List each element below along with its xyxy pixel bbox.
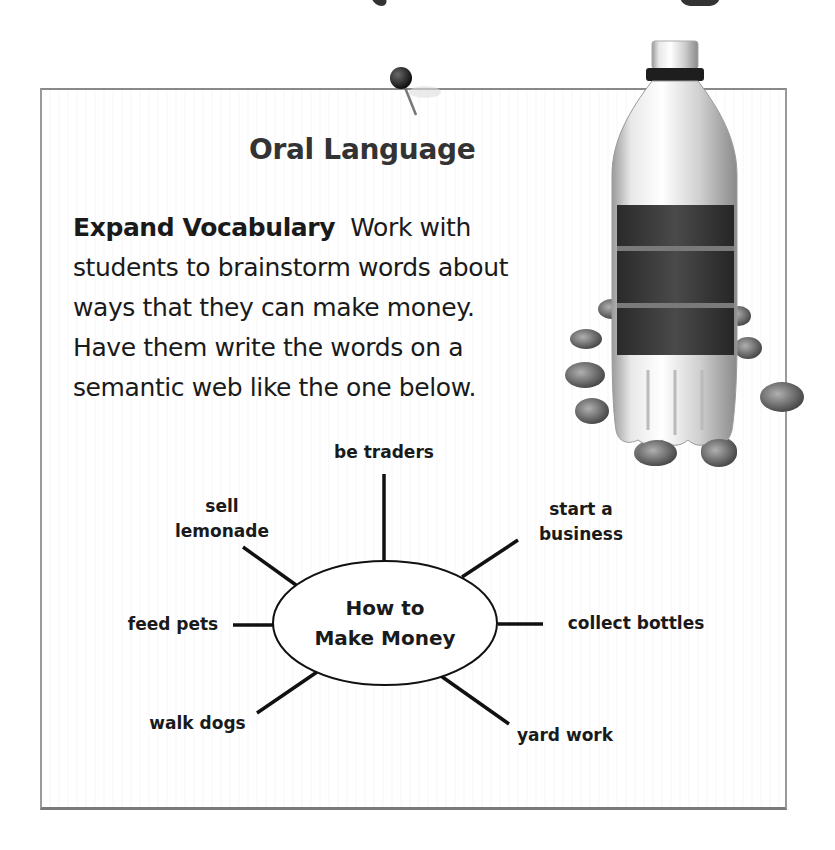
web-node-collect-bottles: collect bottles xyxy=(556,611,716,636)
instruction-paragraph: Expand Vocabulary Work with students to … xyxy=(73,208,543,408)
web-node-text: walk dogs xyxy=(140,711,255,736)
coin xyxy=(734,337,762,359)
bottle-label-stripe xyxy=(617,303,734,308)
web-node-text: collect bottles xyxy=(556,611,716,636)
coin xyxy=(565,362,605,388)
web-node-be-traders: be traders xyxy=(324,440,444,465)
web-node-text: feed pets xyxy=(118,612,228,637)
web-node-yard-work: yard work xyxy=(510,723,620,748)
spoke-yard-work xyxy=(441,676,509,724)
illustration-layer xyxy=(0,0,835,850)
web-node-text: yard work xyxy=(510,723,620,748)
web-center-line: Make Money xyxy=(285,623,485,653)
web-node-text: sell xyxy=(162,494,282,519)
paragraph-bold-lead: Expand Vocabulary xyxy=(73,213,335,242)
web-node-start-a-business: start a business xyxy=(521,497,641,547)
web-center-label: How to Make Money xyxy=(285,593,485,653)
bottle-ring xyxy=(646,68,704,81)
bottle-neck xyxy=(652,41,698,69)
spoke-start-a-business xyxy=(462,540,518,577)
web-node-sell-lemonade: sell lemonade xyxy=(162,494,282,544)
web-node-feed-pets: feed pets xyxy=(118,612,228,637)
section-title: Oral Language xyxy=(249,133,476,166)
coin xyxy=(637,440,677,466)
spoke-walk-dogs xyxy=(257,672,317,713)
paragraph-line: semantic web like the one below. xyxy=(73,373,476,402)
bottle-label xyxy=(617,205,734,355)
coin xyxy=(570,329,602,349)
web-node-text: be traders xyxy=(324,440,444,465)
paragraph-line: Have them write the words on a xyxy=(73,333,463,362)
web-center-line: How to xyxy=(285,593,485,623)
paragraph-line: Work with xyxy=(350,213,471,242)
web-node-text: start a xyxy=(521,497,641,522)
bottle-illustration xyxy=(612,41,737,445)
coin xyxy=(575,398,609,424)
paragraph-line: students to brainstorm words about xyxy=(73,253,508,282)
pushpin-head xyxy=(390,67,412,89)
pushpin-icon xyxy=(390,67,441,115)
coin xyxy=(760,382,804,412)
web-node-text: business xyxy=(521,522,641,547)
web-node-text: lemonade xyxy=(162,519,282,544)
web-node-walk-dogs: walk dogs xyxy=(140,711,255,736)
spoke-sell-lemonade xyxy=(243,547,296,585)
pushpin-shadow xyxy=(409,86,441,98)
bottle-label-stripe xyxy=(617,246,734,251)
paragraph-line: ways that they can make money. xyxy=(73,293,475,322)
coin xyxy=(701,439,737,467)
